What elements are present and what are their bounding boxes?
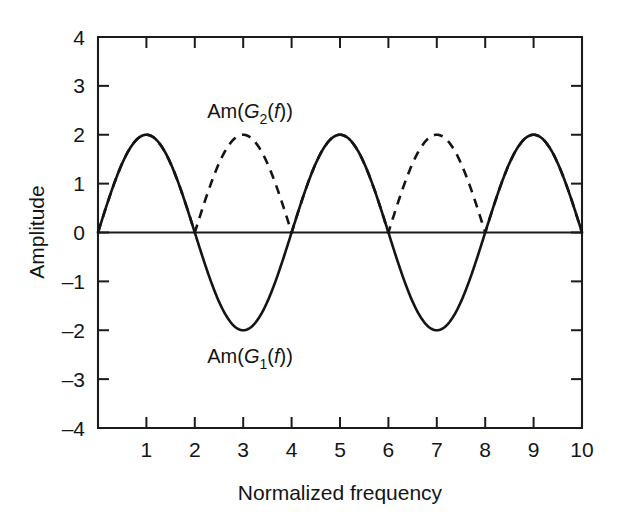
y-tick-label: 2: [73, 123, 85, 146]
y-tick-label: 4: [73, 26, 85, 49]
y-tick-label: –3: [62, 368, 85, 391]
x-tick-label: 9: [528, 438, 540, 461]
y-tick-label: –1: [62, 270, 85, 293]
y-axis-tick-labels: 43210–1–2–3–4: [62, 26, 86, 440]
y-tick-label: –4: [62, 417, 86, 440]
x-tick-label: 7: [431, 438, 443, 461]
x-axis-tick-labels: 12345678910: [141, 438, 594, 461]
annotation-g2-base: G: [244, 100, 260, 122]
x-tick-label: 3: [237, 438, 249, 461]
x-tick-label: 4: [286, 438, 298, 461]
x-axis-title: Normalized frequency: [238, 481, 443, 504]
annotation-g2-suffix: )): [279, 100, 292, 122]
annotation-am-g1: Am(G1(f)): [207, 345, 293, 372]
annotation-g2-prefix: Am(: [207, 100, 244, 122]
y-axis-title: Amplitude: [25, 185, 48, 278]
y-tick-label: 1: [73, 172, 85, 195]
annotation-g1-prefix: Am(: [207, 345, 244, 367]
x-tick-label: 10: [570, 438, 593, 461]
y-tick-label: 0: [73, 221, 85, 244]
y-tick-label: –2: [62, 319, 85, 342]
annotation-g1-subscript: 1: [259, 356, 267, 372]
y-tick-label: 3: [73, 74, 85, 97]
line-chart: 43210–1–2–3–4 12345678910 Amplitude Norm…: [0, 0, 640, 527]
series-line-am-g2: [98, 135, 582, 233]
x-tick-label: 2: [189, 438, 201, 461]
x-tick-label: 8: [479, 438, 491, 461]
x-tick-label: 6: [383, 438, 395, 461]
figure-container: 43210–1–2–3–4 12345678910 Amplitude Norm…: [0, 0, 640, 527]
annotation-g1-base: G: [244, 345, 260, 367]
annotation-g2-subscript: 2: [259, 111, 267, 127]
x-tick-label: 1: [141, 438, 153, 461]
annotation-g1-suffix: )): [279, 345, 292, 367]
annotation-am-g2: Am(G2(f)): [207, 100, 293, 127]
x-tick-label: 5: [334, 438, 346, 461]
